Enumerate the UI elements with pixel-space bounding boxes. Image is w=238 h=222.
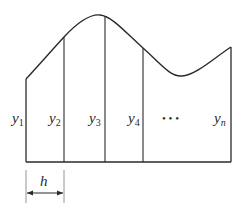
ordinate-label-y3: y3 [87,110,101,128]
function-curve [26,15,231,79]
ellipsis: • • • [162,112,179,124]
arrowhead-left-icon [27,191,33,196]
strip-area-diagram: y1 y2 y3 y4 yn • • • h [0,0,238,222]
arrowhead-right-icon [57,191,63,196]
ordinate-label-y1: y1 [10,110,24,128]
ordinate-label-yn: yn [212,110,226,128]
ordinate-label-y4: y4 [126,110,140,128]
ordinate-label-y2: y2 [47,110,61,128]
width-label-h: h [40,173,48,189]
